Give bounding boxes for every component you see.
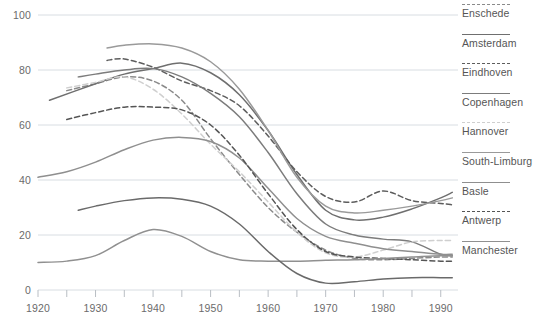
legend-item-south-limburg[interactable]: South-Limburg [462, 152, 534, 167]
gridlines [38, 15, 458, 290]
chart-legend: EnschedeAmsterdamEindhovenCopenhagenHann… [462, 0, 534, 327]
x-axis-tick-label: 1960 [256, 302, 280, 314]
legend-swatch-solid-line-icon [462, 34, 510, 35]
series-line-amsterdam [50, 63, 453, 220]
legend-swatch-dashed-line-icon [462, 63, 510, 64]
legend-label: Copenhagen [462, 96, 534, 108]
legend-label: Hannover [462, 125, 534, 137]
y-axis-tick-label: 100 [13, 9, 31, 21]
legend-swatch-solid-line-icon [462, 93, 510, 94]
legend-label: Antwerp [462, 214, 534, 226]
x-axis-tick-label: 1980 [371, 302, 395, 314]
y-axis-tick-label: 80 [19, 64, 31, 76]
axis-ticks [38, 290, 441, 297]
series-line-enschede [67, 77, 452, 260]
legend-item-manchester[interactable]: Manchester [462, 241, 534, 256]
x-axis-tick-label: 1990 [429, 302, 453, 314]
legend-item-antwerp[interactable]: Antwerp [462, 211, 534, 226]
line-chart: 020406080100 192019301940195019601970198… [0, 0, 534, 327]
legend-swatch-dashed-line-icon [462, 211, 510, 212]
legend-swatch-solid-line-icon [462, 182, 510, 183]
x-axis-tick-label: 1950 [199, 302, 223, 314]
x-axis-tick-label: 1930 [83, 302, 107, 314]
series-line-eindhoven [107, 59, 452, 205]
series-line-antwerp-solid [78, 198, 452, 284]
y-axis-labels: 020406080100 [13, 9, 31, 296]
legend-label: South-Limburg [462, 155, 534, 167]
legend-label: Amsterdam [462, 37, 534, 49]
data-series-group [38, 44, 452, 284]
y-axis-tick-label: 20 [19, 229, 31, 241]
legend-label: Basle [462, 185, 534, 197]
x-axis-tick-label: 1970 [314, 302, 338, 314]
legend-item-amsterdam[interactable]: Amsterdam [462, 34, 534, 49]
series-line-antwerp [67, 107, 452, 262]
legend-swatch-solid-line-icon [462, 152, 510, 153]
series-line-manchester [38, 229, 452, 262]
y-axis-tick-label: 0 [25, 284, 31, 296]
series-line-copenhagen [78, 68, 452, 255]
legend-label: Eindhoven [462, 66, 534, 78]
legend-swatch-dashed-line-icon [462, 4, 510, 5]
legend-item-basle[interactable]: Basle [462, 182, 534, 197]
x-axis-tick-label: 1940 [141, 302, 165, 314]
legend-item-copenhagen[interactable]: Copenhagen [462, 93, 534, 108]
legend-item-eindhoven[interactable]: Eindhoven [462, 63, 534, 78]
x-axis-tick-label: 1920 [26, 302, 50, 314]
legend-swatch-dashed-line-icon [462, 122, 510, 123]
chart-plot-area: 020406080100 192019301940195019601970198… [0, 0, 534, 327]
y-axis-tick-label: 60 [19, 119, 31, 131]
series-line-basle [38, 137, 452, 254]
x-axis-labels: 19201930194019501960197019801990 [26, 302, 453, 314]
y-axis-tick-label: 40 [19, 174, 31, 186]
legend-label: Manchester [462, 244, 534, 256]
legend-swatch-solid-line-icon [462, 241, 510, 242]
series-line-hannover [67, 77, 452, 257]
legend-label: Enschede [462, 7, 534, 19]
legend-item-hannover[interactable]: Hannover [462, 122, 534, 137]
legend-item-enschede[interactable]: Enschede [462, 4, 534, 19]
